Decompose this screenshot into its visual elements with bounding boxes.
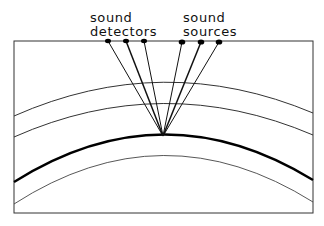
ray-paths	[108, 41, 219, 136]
ray-source-1	[163, 42, 182, 136]
source-dot-icon	[198, 39, 205, 44]
detector-dot-icon	[141, 39, 147, 43]
sources	[179, 39, 223, 44]
reflector-curve	[14, 134, 313, 182]
layer-curve-4	[14, 155, 313, 204]
sources-label-line2: sources	[183, 24, 237, 39]
ray-source-3	[163, 42, 219, 136]
detector-dot-icon	[105, 39, 111, 43]
sources-label-line1: sound	[183, 10, 225, 25]
seismic-reflection-diagram: sound detectors sound sources	[0, 0, 324, 226]
layer-curve-1	[14, 82, 313, 116]
ray-source-2	[163, 42, 201, 136]
source-dot-icon	[179, 39, 186, 44]
source-dot-icon	[216, 39, 223, 44]
subsurface-frame	[14, 41, 313, 213]
ray-detector-2	[126, 41, 163, 136]
detectors-label-line2: detectors	[90, 24, 157, 39]
detector-dot-icon	[123, 39, 129, 43]
detectors-label-line1: sound	[90, 10, 132, 25]
ray-detector-3	[144, 41, 163, 136]
ray-detector-1	[108, 41, 163, 136]
